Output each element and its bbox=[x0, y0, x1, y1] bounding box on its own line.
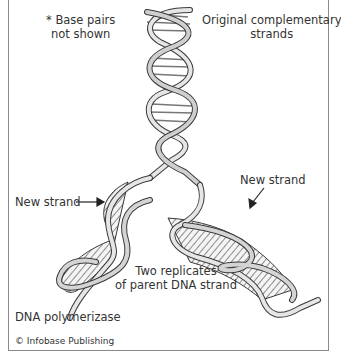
original-strands-line1: Original complementary bbox=[202, 13, 341, 27]
replicates-label: Two replicates of parent DNA strand bbox=[115, 264, 237, 292]
original-strands-line2: strands bbox=[202, 27, 341, 41]
replicates-line1: Two replicates bbox=[115, 264, 237, 278]
base-pairs-note-line2: not shown bbox=[46, 27, 115, 41]
parent-helix bbox=[147, 10, 200, 185]
copyright-label: © Infobase Publishing bbox=[15, 334, 114, 348]
new-strand-left-label: New strand bbox=[15, 195, 81, 209]
new-strand-right-label: New strand bbox=[240, 173, 306, 187]
base-pairs-note: * Base pairs not shown bbox=[46, 13, 115, 41]
right-daughter-helix bbox=[168, 185, 318, 315]
original-strands-label: Original complementary strands bbox=[202, 13, 341, 41]
dna-polymerase-label: DNA polymerizase bbox=[15, 310, 121, 324]
replicates-line2: of parent DNA strand bbox=[115, 278, 237, 292]
arrow-new-strand-right bbox=[249, 188, 264, 208]
base-pairs-note-line1: * Base pairs bbox=[46, 13, 115, 27]
